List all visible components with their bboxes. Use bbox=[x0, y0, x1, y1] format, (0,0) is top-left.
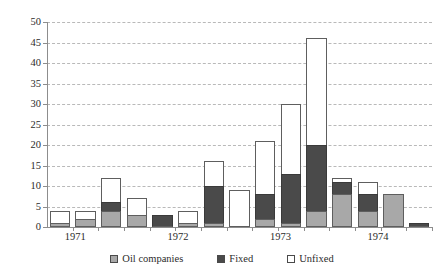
x-axis-tick bbox=[432, 227, 433, 231]
bar-segment-oil-companies[interactable] bbox=[358, 211, 379, 227]
bar-segment-fixed[interactable] bbox=[409, 223, 430, 227]
y-axis-tick-label: 30 bbox=[31, 99, 42, 110]
legend-swatch-oil-icon bbox=[110, 255, 118, 263]
bar[interactable] bbox=[332, 178, 353, 227]
bar-segment-unfixed[interactable] bbox=[358, 182, 379, 194]
bar[interactable] bbox=[127, 198, 148, 227]
bar-segment-fixed[interactable] bbox=[152, 215, 173, 227]
x-axis-tick bbox=[406, 227, 407, 231]
x-axis-tick bbox=[304, 227, 305, 231]
x-axis-tick bbox=[227, 227, 228, 231]
x-axis-tick bbox=[329, 227, 330, 231]
bar[interactable] bbox=[152, 215, 173, 227]
bar-segment-fixed[interactable] bbox=[281, 174, 302, 223]
bar-segment-fixed[interactable] bbox=[204, 186, 225, 223]
bar-segment-unfixed[interactable] bbox=[75, 211, 96, 219]
x-axis-year-label: 1971 bbox=[65, 232, 86, 243]
bar[interactable] bbox=[255, 141, 276, 227]
bar[interactable] bbox=[50, 211, 71, 227]
x-axis-tick bbox=[150, 227, 151, 231]
bar-series-container bbox=[47, 22, 432, 227]
x-axis-tick bbox=[355, 227, 356, 231]
legend-label: Fixed bbox=[229, 254, 253, 265]
y-axis-tick-label: 25 bbox=[31, 119, 42, 130]
bar-segment-unfixed[interactable] bbox=[306, 38, 327, 145]
legend-item[interactable]: Unfixed bbox=[287, 254, 333, 265]
x-axis-year-label: 1974 bbox=[368, 232, 389, 243]
bar-segment-oil-companies[interactable] bbox=[204, 223, 225, 227]
bar-segment-fixed[interactable] bbox=[255, 194, 276, 219]
chart-root: 05101520253035404550 1971197219731974 Oi… bbox=[0, 0, 444, 279]
bar-segment-oil-companies[interactable] bbox=[281, 223, 302, 227]
x-axis-year-label: 1973 bbox=[270, 232, 291, 243]
y-axis-tick-label: 50 bbox=[31, 17, 42, 28]
x-axis-tick bbox=[124, 227, 125, 231]
chart-legend: Oil companiesFixedUnfixed bbox=[0, 254, 444, 265]
y-axis-tick-label: 45 bbox=[31, 37, 42, 48]
plot-area: 05101520253035404550 bbox=[47, 22, 432, 227]
legend-swatch-fixed-icon bbox=[217, 255, 225, 263]
bar[interactable] bbox=[281, 104, 302, 227]
legend-swatch-unfixed-icon bbox=[287, 255, 295, 263]
bar[interactable] bbox=[75, 211, 96, 227]
x-axis-year-label: 1972 bbox=[167, 232, 188, 243]
x-axis-tick bbox=[201, 227, 202, 231]
x-axis-tick bbox=[98, 227, 99, 231]
y-axis-tick-label: 35 bbox=[31, 78, 42, 89]
bar-segment-unfixed[interactable] bbox=[204, 161, 225, 186]
legend-label: Unfixed bbox=[299, 254, 333, 265]
bar[interactable] bbox=[178, 211, 199, 227]
legend-item[interactable]: Fixed bbox=[217, 254, 253, 265]
y-axis-tick-label: 40 bbox=[31, 58, 42, 69]
y-axis-tick-label: 10 bbox=[31, 181, 42, 192]
legend-label: Oil companies bbox=[122, 254, 183, 265]
bar-segment-oil-companies[interactable] bbox=[127, 215, 148, 227]
bar[interactable] bbox=[204, 161, 225, 227]
bar-segment-unfixed[interactable] bbox=[50, 211, 71, 223]
bar[interactable] bbox=[306, 38, 327, 227]
y-axis-tick bbox=[43, 227, 47, 228]
bar[interactable] bbox=[358, 182, 379, 227]
gridline bbox=[47, 227, 432, 228]
x-axis-tick bbox=[252, 227, 253, 231]
bar-segment-unfixed[interactable] bbox=[178, 211, 199, 223]
bar[interactable] bbox=[409, 223, 430, 227]
y-axis-tick-label: 0 bbox=[36, 222, 41, 233]
bar[interactable] bbox=[383, 194, 404, 227]
bar-segment-fixed[interactable] bbox=[101, 202, 122, 210]
bar-segment-oil-companies[interactable] bbox=[332, 194, 353, 227]
bar-segment-oil-companies[interactable] bbox=[306, 211, 327, 227]
bar-segment-oil-companies[interactable] bbox=[178, 223, 199, 227]
bar-segment-oil-companies[interactable] bbox=[255, 219, 276, 227]
y-axis-tick-label: 15 bbox=[31, 160, 42, 171]
bar-segment-unfixed[interactable] bbox=[127, 198, 148, 214]
bar-segment-unfixed[interactable] bbox=[229, 190, 250, 227]
bar-segment-fixed[interactable] bbox=[332, 182, 353, 194]
bar-segment-oil-companies[interactable] bbox=[101, 211, 122, 227]
bar-segment-unfixed[interactable] bbox=[255, 141, 276, 194]
bar-segment-unfixed[interactable] bbox=[281, 104, 302, 174]
bar[interactable] bbox=[229, 190, 250, 227]
bar-segment-fixed[interactable] bbox=[306, 145, 327, 211]
legend-item[interactable]: Oil companies bbox=[110, 254, 183, 265]
y-axis-tick-label: 20 bbox=[31, 140, 42, 151]
bar-segment-unfixed[interactable] bbox=[101, 178, 122, 203]
x-axis-year-labels: 1971197219731974 bbox=[47, 232, 432, 248]
bar-segment-fixed[interactable] bbox=[358, 194, 379, 210]
bar-segment-oil-companies[interactable] bbox=[75, 219, 96, 227]
bar-segment-oil-companies[interactable] bbox=[383, 194, 404, 227]
bar-segment-oil-companies[interactable] bbox=[50, 223, 71, 227]
y-axis-tick-label: 5 bbox=[36, 201, 41, 212]
bar[interactable] bbox=[101, 178, 122, 227]
